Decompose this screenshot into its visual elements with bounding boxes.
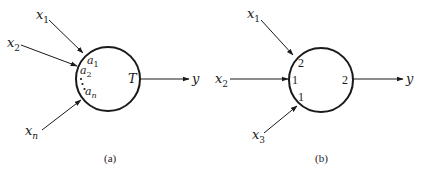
input-arrow-x1 — [261, 20, 293, 55]
weight-value-x2: 1 — [292, 73, 298, 87]
input-label-x2: x2 — [215, 71, 228, 89]
threshold-label-b: 2 — [342, 73, 348, 87]
input-arrow-x3 — [264, 106, 297, 133]
caption-b: (b) — [315, 152, 328, 165]
diagram-a: x1 x2 xn a1 a2 an T y (a) — [7, 7, 200, 165]
weight-label-a1: a1 — [87, 54, 99, 69]
input-label-x2: x2 — [7, 35, 20, 53]
input-a-xn: xn — [25, 100, 81, 141]
diagram-b: x1 x2 x3 2 1 1 2 y (b) — [215, 6, 414, 165]
input-label-x1: x1 — [247, 6, 260, 24]
output-label-a: y — [191, 71, 200, 86]
output-label-b: y — [405, 71, 414, 86]
input-a-x1: x1 — [36, 7, 83, 53]
input-label-x3: x3 — [252, 127, 265, 145]
input-arrow-xn — [42, 100, 81, 130]
input-b-x3: x3 — [252, 106, 297, 145]
threshold-label-a: T — [128, 71, 138, 86]
input-arrow-x1 — [49, 20, 83, 53]
input-arrow-x2 — [21, 45, 77, 66]
threshold-unit-diagrams: x1 x2 xn a1 a2 an T y (a) — [0, 0, 421, 175]
input-b-x2: x2 — [215, 71, 288, 89]
input-b-x1: x1 — [247, 6, 293, 55]
weight-label-an: an — [85, 85, 97, 100]
weight-value-x1: 2 — [298, 56, 304, 70]
weight-value-x3: 1 — [298, 90, 304, 104]
input-label-x1: x1 — [36, 7, 49, 25]
caption-a: (a) — [104, 152, 117, 165]
input-label-xn: xn — [25, 123, 38, 141]
input-a-x2: x2 — [7, 35, 77, 66]
